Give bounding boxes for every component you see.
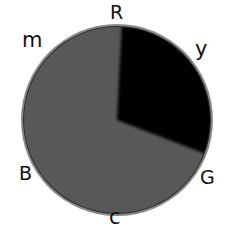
label-magenta: m <box>22 30 42 51</box>
label-yellow: y <box>195 39 207 60</box>
label-cyan: c <box>109 207 121 228</box>
label-red: R <box>110 3 123 22</box>
label-blue: B <box>19 164 32 183</box>
label-green: G <box>200 168 215 187</box>
